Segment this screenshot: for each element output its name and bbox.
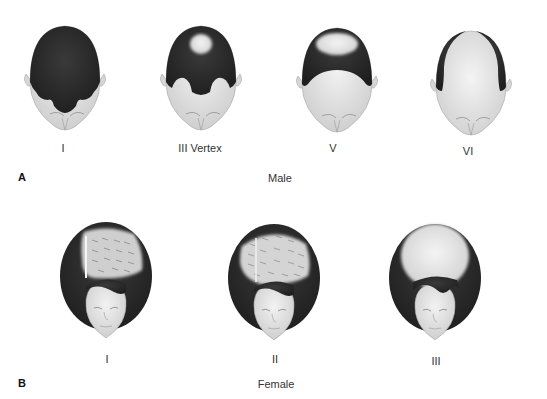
male-stage-1-label: I: [61, 142, 64, 154]
female-stage-2-illustration: [226, 222, 322, 350]
panel-b-caption: Female: [258, 378, 295, 390]
female-stage-1-illustration: [58, 220, 154, 348]
male-stage-5-illustration: [292, 24, 382, 136]
female-stage-1-label: I: [105, 353, 108, 365]
male-stage-6-label: VI: [463, 145, 473, 157]
male-stage-5-label: V: [329, 142, 336, 154]
female-stage-3-illustration: [387, 222, 483, 350]
male-stage-3-vertex-illustration: [156, 22, 246, 134]
female-stage-3-label: III: [431, 355, 440, 367]
panel-a-caption: Male: [268, 172, 292, 184]
panel-b-letter: B: [18, 377, 26, 389]
male-stage-3-vertex-label: III Vertex: [178, 142, 221, 154]
male-stage-1-illustration: [20, 22, 110, 134]
panel-a-letter: A: [18, 171, 26, 183]
male-stage-6-illustration: [426, 27, 516, 139]
female-stage-2-label: II: [272, 353, 278, 365]
